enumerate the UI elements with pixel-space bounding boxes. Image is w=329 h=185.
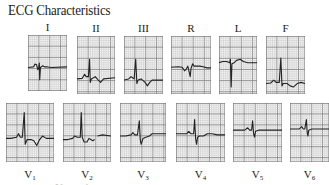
lead-name: R bbox=[187, 22, 194, 34]
lead-subscript: 3 bbox=[145, 174, 149, 182]
ecg-strip-i bbox=[28, 35, 67, 91]
page-title: ECG Characteristics bbox=[8, 1, 110, 19]
ecg-grid bbox=[124, 36, 163, 94]
ecg-strip-v2 bbox=[63, 103, 111, 162]
ecg-grid bbox=[176, 103, 225, 162]
ecg-strip-v3 bbox=[120, 103, 166, 162]
lead-label-f: F bbox=[266, 22, 306, 34]
lead-label-r: R bbox=[171, 22, 211, 34]
ecg-strip-ii bbox=[77, 36, 115, 94]
lead-name: V bbox=[252, 168, 260, 180]
lead-subscript: 1 bbox=[32, 174, 36, 182]
ecg-grid bbox=[28, 35, 67, 91]
lead-name: V bbox=[304, 168, 312, 180]
lead-label-v1: V1 bbox=[10, 168, 50, 184]
ecg-strip-iii bbox=[124, 36, 163, 94]
lead-subscript: 4 bbox=[203, 174, 207, 182]
lead-label-v6: V6 bbox=[290, 168, 329, 184]
lead-label-iii: III bbox=[124, 22, 164, 34]
lead-label-l: L bbox=[218, 22, 258, 34]
lead-name: I bbox=[46, 21, 50, 33]
lead-label-v3: V3 bbox=[123, 168, 163, 184]
ecg-grid bbox=[233, 103, 282, 162]
lead-name: V bbox=[195, 168, 203, 180]
lead-label-ii: II bbox=[76, 22, 116, 34]
ecg-strip-v6 bbox=[290, 103, 329, 162]
footer-text-fragment: Normal bbox=[55, 181, 89, 185]
lead-subscript: 2 bbox=[89, 174, 93, 182]
ecg-grid bbox=[171, 36, 211, 94]
ecg-grid bbox=[77, 36, 115, 94]
lead-label-v4: V4 bbox=[181, 168, 221, 184]
ecg-grid bbox=[63, 103, 111, 162]
ecg-strip-v5 bbox=[233, 103, 282, 162]
lead-name: L bbox=[235, 22, 242, 34]
lead-name: II bbox=[92, 22, 99, 34]
ecg-grid bbox=[290, 103, 329, 162]
lead-label-i: I bbox=[28, 21, 68, 33]
ecg-grid bbox=[219, 36, 257, 94]
ecg-strip-v4 bbox=[176, 103, 225, 162]
lead-name: F bbox=[282, 22, 288, 34]
ecg-strip-r bbox=[171, 36, 211, 94]
ecg-strip-f bbox=[266, 36, 305, 94]
lead-subscript: 6 bbox=[312, 174, 316, 182]
lead-label-v5: V5 bbox=[238, 168, 278, 184]
ecg-grid bbox=[120, 103, 166, 162]
ecg-grid bbox=[266, 36, 305, 94]
ecg-grid bbox=[6, 103, 54, 162]
ecg-strip-v1 bbox=[6, 103, 54, 162]
lead-name: III bbox=[138, 22, 149, 34]
ecg-strip-l bbox=[219, 36, 257, 94]
lead-subscript: 5 bbox=[260, 174, 264, 182]
